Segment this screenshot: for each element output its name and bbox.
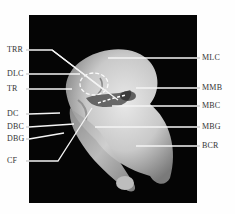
label-dbg: DBG [7,135,25,143]
label-mmb: MMB [202,84,222,92]
label-mbg: MBG [202,123,221,131]
bone-nub [116,176,134,190]
specimen-illustration [0,0,235,214]
label-dc: DC [7,110,19,118]
label-bcr: BCR [202,142,219,150]
label-tr: TR [7,85,18,93]
label-dlc: DLC [7,70,24,78]
label-trr: TRR [7,46,23,54]
label-cf: CF [7,157,17,165]
label-dbc: DBC [7,123,24,131]
label-mbc: MBC [202,102,220,110]
label-mlc: MLC [202,54,220,62]
